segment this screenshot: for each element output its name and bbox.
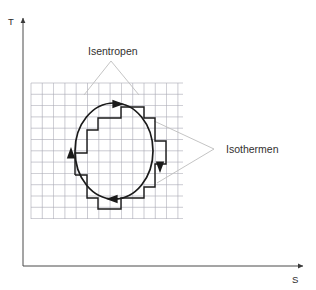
callout-leader-lines	[84, 61, 214, 183]
callout-isentropen-leader	[84, 61, 111, 95]
arrow-left-icon	[67, 147, 75, 159]
callout-isentropen-leader	[111, 61, 139, 95]
temperature-axis-label: T	[8, 16, 14, 27]
callout-isothermen-label: Isothermen	[226, 143, 279, 155]
arrow-right-icon	[156, 161, 164, 173]
entropy-axis-label: S	[292, 274, 298, 285]
callout-isothermen-leader	[154, 121, 214, 149]
ts-diagram: T S Isentropen Isothermen	[0, 0, 316, 290]
callout-isentropen-label: Isentropen	[88, 45, 138, 57]
diagram-canvas: T S Isentropen Isothermen	[0, 0, 316, 290]
